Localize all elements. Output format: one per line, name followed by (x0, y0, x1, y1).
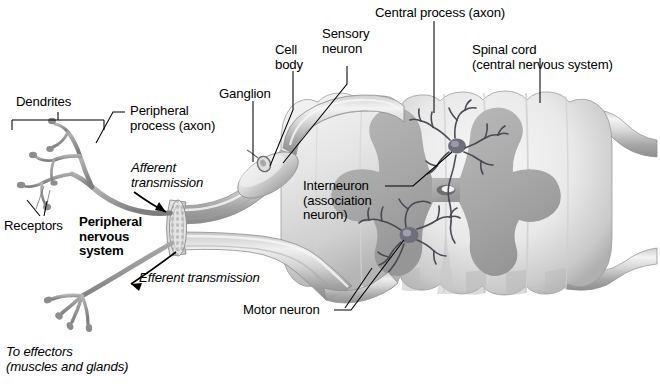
label-motor-neuron: Motor neuron (243, 303, 320, 318)
cut-nerve-trunk-end (167, 200, 187, 256)
label-afferent-transmission: Afferent transmission (131, 161, 203, 190)
label-spinal-cord: Spinal cord (central nervous system) (472, 43, 613, 72)
figure-canvas: Dendrites Peripheral process (axon) Rece… (0, 0, 660, 384)
label-ganglion: Ganglion (219, 87, 271, 102)
label-peripheral-process: Peripheral process (axon) (130, 104, 215, 133)
label-central-process: Central process (axon) (375, 6, 505, 21)
label-dendrites: Dendrites (16, 95, 71, 110)
label-efferent-transmission: Efferent transmission (139, 271, 260, 286)
peripheral-process-leader (96, 112, 125, 143)
dendrite-branches (24, 124, 92, 204)
dendrites-bracket (12, 112, 104, 130)
label-cell-body: Cell body (275, 43, 303, 72)
label-to-effectors: To effectors (muscles and glands) (6, 345, 128, 374)
label-peripheral-nervous-system: Peripheral nervous system (79, 215, 142, 259)
label-interneuron: Interneuron (association neuron) (303, 179, 372, 223)
motor-end-plates (52, 295, 88, 324)
label-sensory-neuron: Sensory neuron (322, 27, 369, 56)
label-receptors: Receptors (4, 219, 63, 234)
